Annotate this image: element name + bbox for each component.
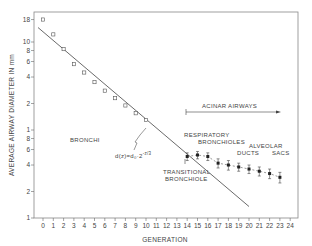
filled-square-marker: [206, 155, 209, 158]
x-tick-label: 6: [103, 222, 107, 229]
x-tick-label: 9: [134, 222, 138, 229]
y-tick-label: 10: [23, 38, 31, 45]
alveolar-label: ALVEOLAR: [249, 143, 283, 149]
filled-square-marker: [186, 155, 189, 158]
y-tick-label: 6: [26, 146, 30, 153]
x-tick-label: 16: [204, 222, 212, 229]
y-tick-label: 2: [26, 188, 30, 195]
filled-square-marker: [217, 162, 220, 165]
acinar-arrow-head-icon: [276, 111, 281, 114]
filled-square-marker: [268, 172, 271, 175]
x-tick-label: 8: [124, 222, 128, 229]
x-tick-label: 17: [214, 222, 222, 229]
x-tick-label: 5: [93, 222, 97, 229]
y-tick-label: 1: [26, 214, 30, 221]
chart: 18108642186421 0123456789101112131415161…: [0, 0, 312, 246]
open-square-marker: [83, 71, 86, 74]
x-axis-ticks: 0123456789101112131415161718192021222324: [41, 218, 294, 229]
open-square-marker: [52, 33, 55, 36]
bronchi-data-points: [41, 18, 147, 122]
formula-leader-line: [134, 128, 146, 150]
y-tick-label: 4: [26, 73, 30, 80]
fit-line: [38, 28, 249, 207]
y-tick-label: 18: [23, 16, 31, 23]
y-tick-label: 4: [26, 161, 30, 168]
filled-square-marker: [237, 165, 240, 168]
filled-square-marker: [248, 168, 251, 171]
y-tick-label: 6: [26, 58, 30, 65]
x-tick-label: 0: [41, 222, 45, 229]
open-square-marker: [41, 18, 44, 21]
open-square-marker: [114, 97, 117, 100]
x-tick-label: 4: [82, 222, 86, 229]
transitional-label: TRANSITIONAL: [163, 169, 211, 175]
open-square-marker: [124, 104, 127, 107]
x-tick-label: 11: [153, 222, 160, 229]
ducts-label: DUCTS: [237, 150, 259, 156]
open-square-marker: [144, 118, 147, 121]
model-fit-line: [38, 28, 249, 207]
open-square-marker: [72, 63, 75, 66]
x-axis-label: GENERATION: [142, 236, 188, 243]
y-axis-label: AVERAGE AIRWAY DIAMETER IN mm: [8, 54, 15, 176]
y-tick-label: 8: [26, 47, 30, 54]
x-tick-label: 15: [194, 222, 202, 229]
y-tick-label: 2: [26, 100, 30, 107]
filled-square-marker: [278, 176, 281, 179]
filled-square-marker: [258, 170, 261, 173]
bronchiole-label: BRONCHIOLE: [165, 176, 208, 182]
acinar-airways-label: ACINAR AIRWAYS: [202, 103, 257, 109]
x-tick-label: 23: [276, 222, 284, 229]
sacs-label: SACS: [272, 150, 290, 156]
x-tick-label: 2: [62, 222, 66, 229]
x-tick-label: 18: [225, 222, 233, 229]
open-square-marker: [103, 89, 106, 92]
formula-label: d(z)=d₀·2-z/3: [115, 151, 152, 159]
y-tick-label: 8: [26, 135, 30, 142]
x-tick-label: 24: [287, 222, 295, 229]
x-tick-label: 20: [245, 222, 253, 229]
y-tick-label: 1: [26, 126, 30, 133]
filled-square-marker: [196, 153, 199, 156]
y-axis-ticks: 18108642186421: [23, 16, 34, 221]
open-square-marker: [62, 48, 65, 51]
x-tick-label: 3: [72, 222, 76, 229]
plot-frame: [34, 12, 298, 218]
x-tick-label: 14: [184, 222, 192, 229]
x-tick-label: 10: [142, 222, 150, 229]
open-square-marker: [93, 81, 96, 84]
x-tick-label: 12: [163, 222, 171, 229]
open-square-marker: [134, 112, 137, 115]
bronchi-label: BRONCHI: [70, 137, 100, 143]
x-tick-label: 13: [173, 222, 181, 229]
filled-square-marker: [227, 164, 230, 167]
x-tick-label: 21: [256, 222, 264, 229]
x-tick-label: 19: [235, 222, 243, 229]
bronchioles-label: BRONCHIOLES: [198, 139, 245, 145]
respiratory-label: RESPIRATORY: [184, 132, 230, 138]
x-tick-label: 22: [266, 222, 274, 229]
x-tick-label: 7: [113, 222, 117, 229]
x-tick-label: 1: [51, 222, 55, 229]
